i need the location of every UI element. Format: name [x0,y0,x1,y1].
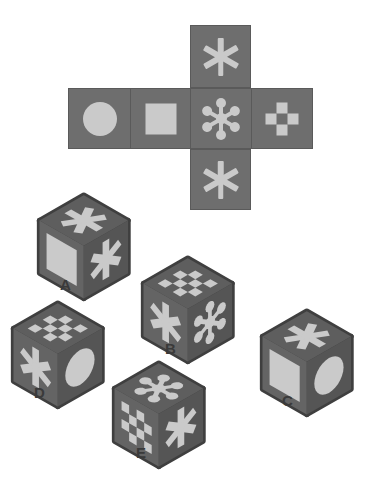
option-label-b: B [165,340,176,357]
option-cube-b[interactable] [140,255,244,371]
option-cube-a[interactable] [36,192,140,308]
option-label-e: E [136,444,146,461]
option-label-c: C [282,392,293,409]
option-cube-d[interactable] [10,300,114,416]
cube-net [68,25,313,210]
checkered-plus-icon [266,102,299,135]
net-face-mid [130,88,191,149]
net-face-left [68,88,131,149]
molecule-icon [200,98,242,140]
net-face-right [251,88,313,149]
asterisk-icon [201,160,241,200]
option-label-a: A [60,276,71,293]
puzzle-stage: A B C D E [0,0,373,499]
net-face-bottom [190,149,251,210]
net-face-top [190,25,251,88]
circle-icon [83,102,117,136]
option-cube-c[interactable] [259,308,363,424]
option-cube-e[interactable] [111,360,215,476]
asterisk-icon [201,37,241,77]
option-label-d: D [34,384,45,401]
net-face-center [190,88,252,149]
square-icon [145,103,176,134]
